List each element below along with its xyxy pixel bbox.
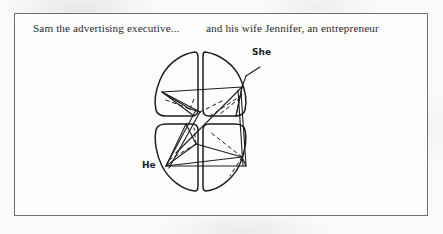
connector-solid-6 — [176, 87, 242, 153]
connector-solid-5 — [162, 92, 194, 116]
connector-solid-11 — [238, 90, 243, 166]
solid-connectors — [162, 67, 260, 168]
quadrant-upper-left — [155, 52, 198, 116]
figure-area: She He — [14, 40, 428, 216]
connector-solid-7 — [242, 76, 246, 87]
head-quadrant-diagram: She He — [14, 40, 428, 216]
screenshot-page: Sam the advertising executive... and his… — [0, 0, 443, 234]
caption-left-text: Sam the advertising executive... — [33, 22, 180, 34]
connector-dashed-5 — [210, 132, 242, 157]
connector-solid-8 — [246, 67, 260, 76]
quadrant-shapes — [155, 52, 246, 191]
label-she: She — [252, 47, 271, 57]
connector-solid-16 — [166, 157, 242, 166]
connector-solid-13 — [169, 112, 200, 168]
label-he: He — [142, 160, 156, 170]
dashed-connectors — [166, 95, 242, 176]
connector-solid-1 — [162, 87, 242, 92]
caption-right-text: and his wife Jennifer, an entrepreneur — [206, 22, 379, 34]
connector-dashed-2 — [190, 96, 195, 109]
